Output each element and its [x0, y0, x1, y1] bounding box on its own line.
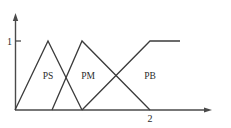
x-tick-label-2: 2	[148, 113, 153, 124]
y-axis-arrowhead	[13, 13, 18, 21]
label-pm: PM	[81, 71, 95, 81]
x-axis-arrowhead	[204, 107, 212, 112]
y-tick-label-1: 1	[7, 36, 12, 47]
membership-curve-pb	[82, 41, 180, 110]
membership-curve-pm	[52, 41, 150, 110]
label-pb: PB	[144, 71, 156, 81]
membership-function-plot: 1 2 PS PM PB	[0, 0, 231, 128]
label-ps: PS	[43, 71, 54, 81]
